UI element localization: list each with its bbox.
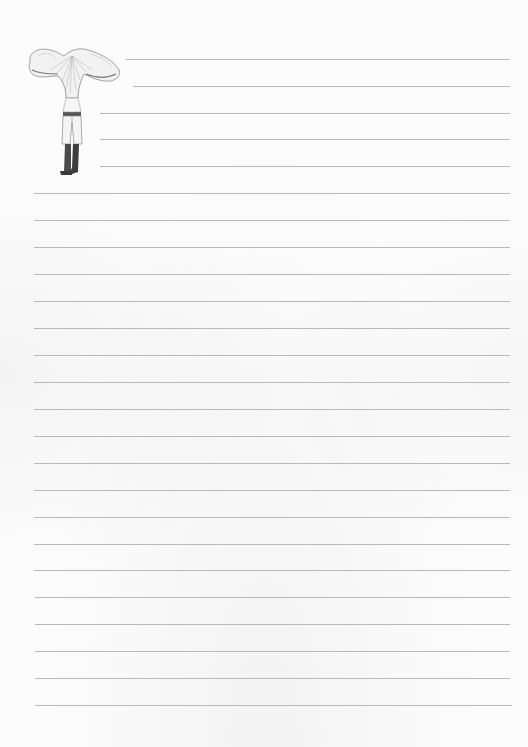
ruled-line [34, 570, 510, 571]
ruled-line [100, 113, 510, 114]
mushroom-cap-icon [29, 49, 119, 98]
ruled-line [34, 544, 510, 545]
ruled-line [34, 247, 510, 248]
ruled-line [34, 355, 510, 356]
ruled-line [100, 166, 510, 167]
ruled-line [133, 86, 510, 87]
torso-icon [63, 98, 81, 112]
ruled-line [34, 436, 510, 437]
lined-paper-page [0, 0, 528, 747]
ruled-line [100, 139, 510, 140]
trousers-icon [62, 112, 82, 144]
ruled-line [34, 193, 510, 194]
ruled-line [35, 651, 510, 652]
ruled-line [34, 274, 510, 275]
ruled-line [34, 382, 510, 383]
ruled-line [34, 463, 510, 464]
ruled-line [34, 409, 510, 410]
boots-icon [60, 144, 79, 175]
ruled-line [34, 490, 510, 491]
ruled-line [34, 517, 510, 518]
ruled-line [34, 220, 510, 221]
ruled-line [35, 597, 510, 598]
ruled-line [35, 624, 510, 625]
ruled-line [126, 59, 510, 60]
ruled-line [35, 705, 512, 706]
ruled-line [34, 301, 510, 302]
ruled-line [34, 328, 510, 329]
ruled-line [35, 678, 510, 679]
